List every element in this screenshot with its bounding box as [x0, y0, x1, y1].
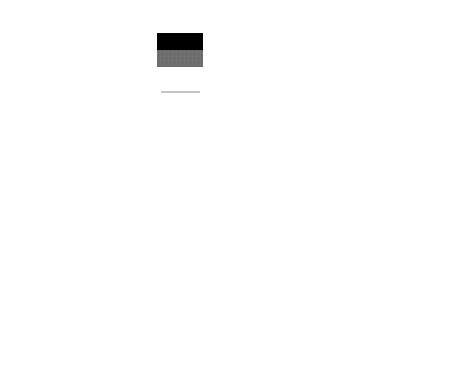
legend-swatch-domestic	[157, 50, 203, 67]
emissions-area-chart	[0, 0, 454, 375]
chart-background	[0, 0, 454, 375]
legend-swatch-industry	[157, 33, 203, 50]
chart-figure	[0, 0, 454, 375]
